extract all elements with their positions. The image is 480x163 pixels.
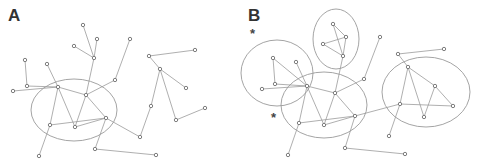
graph-node: [25, 84, 28, 87]
graph-edge: [149, 56, 160, 69]
graph-node: [271, 56, 274, 59]
graph-node: [113, 78, 116, 81]
graph-edge: [27, 86, 58, 87]
graph-node: [297, 121, 300, 124]
graph-node: [154, 153, 157, 156]
graph-node: [193, 48, 196, 51]
graph-node: [56, 85, 59, 88]
graph-edge: [149, 50, 195, 56]
graph-node: [48, 123, 51, 126]
cluster-ellipse: [241, 40, 313, 106]
graph-edge: [262, 86, 307, 89]
graph-node: [398, 102, 401, 105]
graph-edge: [95, 149, 156, 155]
graph-edge: [58, 87, 75, 127]
graph-edge: [115, 39, 130, 80]
graph-node: [387, 134, 390, 137]
graph-node: [92, 56, 95, 59]
graph-node: [378, 35, 381, 38]
graph-node: [406, 65, 409, 68]
graph-edge: [75, 95, 86, 127]
graph-edge: [299, 86, 307, 123]
graph-edge: [25, 60, 27, 86]
graph-node: [174, 118, 177, 121]
graph-edge: [389, 104, 400, 136]
cluster-ellipse: [281, 72, 367, 138]
graph-edge: [296, 62, 307, 86]
graph-node: [81, 23, 84, 26]
panel-label-b: B: [248, 6, 260, 26]
graph-node: [333, 91, 336, 94]
graph-edge: [95, 118, 106, 149]
panel-label-a: A: [8, 6, 20, 26]
graph-edge: [335, 93, 355, 116]
graph-node: [362, 77, 365, 80]
graph-node: [344, 35, 347, 38]
graph-edge: [435, 86, 453, 106]
asterisk-marker-bottom: *: [271, 110, 276, 125]
graph-node: [84, 93, 87, 96]
network-graph-b: [240, 0, 480, 163]
panel-a: A: [0, 0, 240, 163]
graph-node: [138, 135, 141, 138]
graph-node: [104, 116, 107, 119]
graph-node: [321, 42, 324, 45]
graph-edge: [345, 116, 355, 148]
graph-node: [158, 67, 161, 70]
graph-node: [149, 104, 152, 107]
graph-edge: [273, 58, 307, 86]
graph-edge: [324, 93, 335, 125]
graph-node: [433, 84, 436, 87]
graph-node: [72, 44, 75, 47]
graph-node: [442, 47, 445, 50]
graph-node: [37, 154, 40, 157]
graph-node: [422, 115, 425, 118]
graph-edge: [94, 39, 97, 58]
network-graph-a: [0, 0, 240, 163]
graph-edge: [140, 106, 151, 137]
graph-node: [95, 37, 98, 40]
graph-edge: [160, 69, 176, 120]
graph-node: [23, 58, 26, 61]
graph-edge: [13, 87, 58, 91]
graph-edge: [160, 69, 186, 88]
graph-edge: [323, 37, 346, 44]
graph-edge: [86, 95, 106, 118]
graph-node: [341, 54, 344, 57]
graph-edge: [176, 108, 205, 120]
graph-edge: [408, 67, 435, 86]
graph-edge: [50, 87, 58, 125]
cluster-ellipse: [313, 9, 359, 69]
graph-edge: [355, 104, 400, 116]
graph-node: [396, 52, 399, 55]
graph-node: [451, 104, 454, 107]
panel-b: B * *: [240, 0, 480, 163]
graph-node: [343, 146, 346, 149]
graph-node: [260, 87, 263, 90]
graph-edge: [364, 37, 380, 79]
graph-node: [147, 54, 150, 57]
graph-node: [73, 125, 76, 128]
graph-edge: [86, 58, 94, 95]
graph-edge: [343, 37, 346, 56]
graph-edge: [324, 116, 355, 125]
graph-edge: [106, 118, 140, 137]
graph-node: [11, 89, 14, 92]
graph-edge: [400, 67, 408, 104]
graph-edge: [151, 69, 160, 106]
graph-node: [203, 106, 206, 109]
asterisk-marker-top: *: [250, 26, 255, 41]
graph-node: [322, 123, 325, 126]
graph-edge: [307, 86, 324, 125]
graph-edge: [86, 80, 115, 95]
graph-edge: [345, 148, 405, 154]
graph-node: [331, 22, 334, 25]
graph-edge: [307, 86, 335, 93]
graph-edge: [83, 25, 94, 58]
graph-node: [45, 62, 48, 65]
graph-node: [403, 152, 406, 155]
graph-edge: [408, 67, 424, 117]
graph-node: [184, 86, 187, 89]
graph-edge: [58, 87, 86, 95]
graph-edge: [75, 118, 106, 127]
